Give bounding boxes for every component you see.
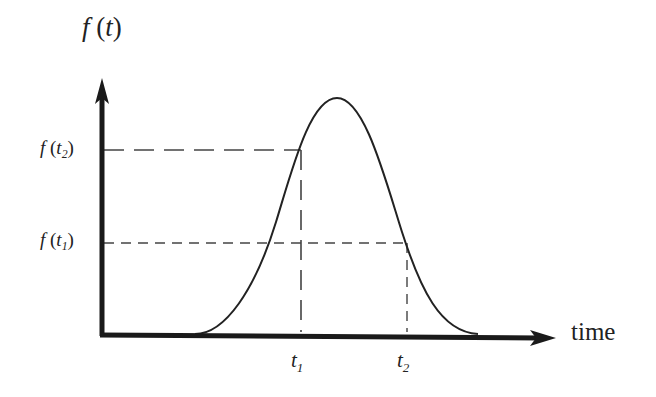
y-marker-close: ) [68, 137, 74, 158]
y-marker-f-t1: f (t1) [40, 229, 74, 254]
y-axis-label: f (t) [82, 12, 122, 43]
guide-lines [104, 150, 407, 332]
y-marker-f-t2: f (t2) [40, 137, 74, 162]
x-marker-t2: t2 [397, 348, 409, 376]
x-marker-t1: t1 [291, 348, 303, 376]
y-marker-open: ( [45, 229, 56, 250]
x-marker-subscript: 2 [403, 360, 410, 375]
x-axis [100, 335, 540, 338]
diagram-canvas [0, 0, 656, 397]
pulse-curve [195, 98, 478, 334]
x-marker-subscript: 1 [297, 360, 304, 375]
y-axis-label-var: t [105, 12, 113, 42]
signal-pulse-diagram: f (t) f (t2) f (t1) t1 t2 time [0, 0, 656, 397]
y-marker-close: ) [68, 229, 74, 250]
y-axis-label-open: ( [90, 12, 106, 42]
y-axis-label-func: f [82, 12, 90, 42]
y-axis-label-close: ) [113, 12, 122, 42]
axes [95, 78, 556, 346]
x-axis-label: time [571, 318, 615, 346]
y-marker-open: ( [45, 137, 56, 158]
